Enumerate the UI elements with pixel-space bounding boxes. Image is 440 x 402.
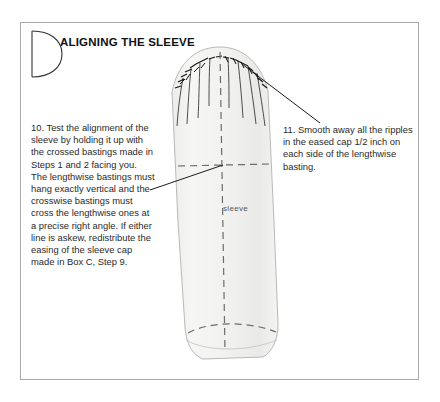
figure-page: ALIGNING THE SLEEVE [0,0,440,402]
dropcap-letter-d [30,30,64,78]
note-step-10: 10. Test the alignment of the sleeve by … [31,122,155,268]
note-step-11: 11. Smooth away all the ripples in the e… [283,124,415,173]
page-title: ALIGNING THE SLEEVE [60,36,195,48]
